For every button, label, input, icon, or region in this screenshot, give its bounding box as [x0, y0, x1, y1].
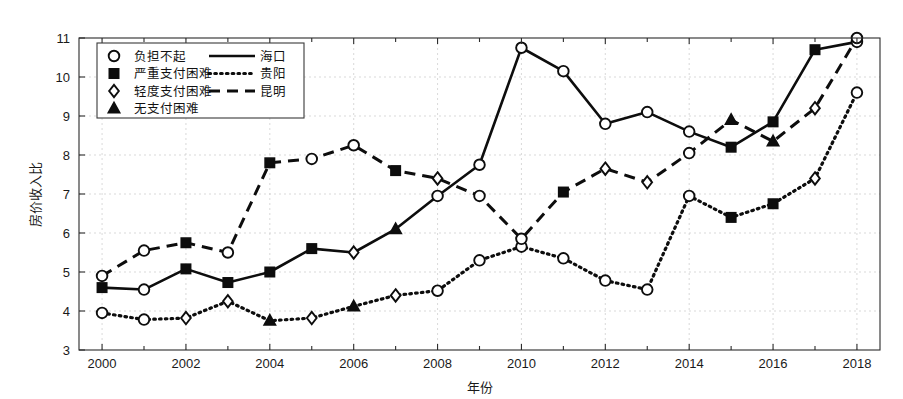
- y-tick-label: 6: [63, 226, 70, 241]
- marker-diamond: [433, 172, 443, 184]
- legend-marker-label: 轻度支付困难: [134, 84, 212, 99]
- series-贵阳: [97, 87, 862, 325]
- marker-circle: [223, 247, 234, 258]
- marker-diamond: [600, 162, 610, 174]
- marker-circle: [852, 87, 863, 98]
- marker-circle: [139, 314, 150, 325]
- marker-circle: [516, 42, 527, 53]
- marker-circle: [97, 271, 108, 282]
- marker-circle: [684, 191, 695, 202]
- marker-circle: [684, 148, 695, 159]
- marker-square: [223, 278, 232, 287]
- y-tick-label: 7: [63, 187, 70, 202]
- marker-circle: [684, 126, 695, 137]
- marker-circle: [432, 191, 443, 202]
- marker-circle: [97, 308, 108, 319]
- y-tick-label: 10: [56, 70, 70, 85]
- y-tick-label: 8: [63, 148, 70, 163]
- x-tick-label: 2004: [255, 356, 284, 371]
- marker-square: [810, 45, 819, 54]
- marker-square: [559, 187, 568, 196]
- y-axis-title: 房价收入比: [28, 162, 43, 227]
- x-axis-title: 年份: [467, 380, 493, 395]
- marker-circle: [139, 284, 150, 295]
- marker-circle: [306, 154, 317, 165]
- legend-line-label: 海口: [260, 49, 286, 64]
- marker-circle: [474, 159, 485, 170]
- x-tick-label: 2002: [171, 356, 200, 371]
- legend-marker-square: [109, 69, 118, 78]
- marker-circle: [516, 234, 527, 245]
- marker-circle: [474, 191, 485, 202]
- y-tick-label: 9: [63, 109, 70, 124]
- x-tick-label: 2008: [423, 356, 452, 371]
- x-tick-label: 2018: [842, 356, 871, 371]
- marker-circle: [642, 284, 653, 295]
- y-tick-label: 5: [63, 265, 70, 280]
- series-line-贵阳: [102, 93, 857, 321]
- x-tick-label: 2016: [759, 356, 788, 371]
- marker-circle: [432, 285, 443, 296]
- y-tick-label: 11: [57, 31, 71, 46]
- x-tick-label: 2014: [675, 356, 704, 371]
- y-tick-label: 4: [63, 304, 70, 319]
- legend-line-label: 贵阳: [260, 66, 286, 81]
- marker-triangle: [725, 114, 736, 124]
- marker-circle: [600, 119, 611, 130]
- marker-circle: [348, 140, 359, 151]
- chart-legend: 负担不起严重支付困难轻度支付困难无支付困难海口贵阳昆明: [97, 43, 304, 118]
- marker-circle: [642, 107, 653, 118]
- legend-marker-label: 严重支付困难: [134, 66, 212, 81]
- chart-canvas: 3456789101120002002200420062008201020122…: [0, 0, 903, 399]
- legend-line-label: 昆明: [260, 84, 286, 99]
- marker-square: [181, 238, 190, 247]
- house-price-income-ratio-chart: 3456789101120002002200420062008201020122…: [0, 0, 903, 399]
- marker-square: [307, 244, 316, 253]
- marker-square: [391, 166, 400, 175]
- marker-diamond: [642, 176, 652, 188]
- x-tick-label: 2010: [507, 356, 536, 371]
- legend-marker-circle: [109, 51, 120, 62]
- marker-square: [181, 264, 190, 273]
- marker-diamond: [181, 312, 191, 324]
- legend-marker-label: 无支付困难: [134, 101, 199, 116]
- legend-marker-label: 负担不起: [134, 49, 186, 64]
- marker-circle: [600, 275, 611, 286]
- marker-square: [768, 199, 777, 208]
- marker-square: [97, 283, 106, 292]
- marker-square: [768, 117, 777, 126]
- marker-square: [726, 213, 735, 222]
- marker-diamond: [223, 295, 233, 307]
- marker-circle: [558, 253, 569, 264]
- marker-circle: [558, 66, 569, 77]
- marker-diamond: [391, 289, 401, 301]
- marker-diamond: [307, 312, 317, 324]
- marker-square: [726, 143, 735, 152]
- marker-square: [265, 158, 274, 167]
- y-tick-label: 3: [63, 343, 70, 358]
- x-tick-label: 2012: [591, 356, 620, 371]
- x-tick-label: 2000: [88, 356, 117, 371]
- marker-circle: [474, 255, 485, 266]
- x-tick-label: 2006: [339, 356, 368, 371]
- marker-square: [265, 267, 274, 276]
- marker-diamond: [349, 246, 359, 258]
- marker-circle: [139, 245, 150, 256]
